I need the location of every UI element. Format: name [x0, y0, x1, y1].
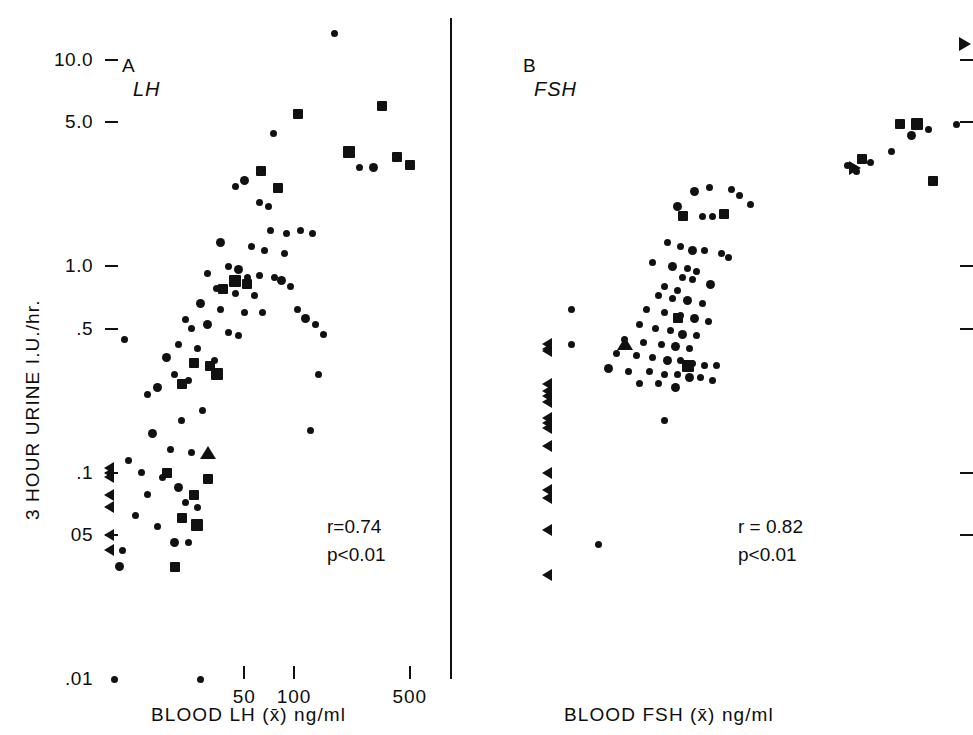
y-tick-mark — [105, 328, 118, 330]
data-point-circle — [713, 362, 720, 369]
data-point-circle — [633, 352, 640, 359]
data-point-circle — [225, 263, 232, 270]
data-point-circle — [182, 499, 189, 506]
data-point-circle — [315, 371, 322, 378]
data-point-circle — [188, 449, 195, 456]
data-point-square — [218, 284, 228, 294]
panel-a-statistics: r=0.74 p<0.01 — [327, 513, 386, 568]
data-point-circle — [671, 342, 680, 351]
x-tick-mark — [409, 666, 411, 679]
data-point-circle — [225, 329, 232, 336]
data-point-circle — [320, 331, 327, 338]
panel-b-x-axis-title: BLOOD FSH (x̄) ng/ml — [564, 704, 774, 726]
data-point-circle — [690, 187, 699, 196]
data-point-circle — [125, 457, 132, 464]
data-point-square — [189, 358, 199, 368]
data-point-square — [673, 313, 683, 323]
data-point-square — [229, 275, 241, 287]
data-point-circle — [568, 306, 575, 313]
y-tick-mark — [105, 534, 118, 536]
data-point-circle — [203, 320, 212, 329]
data-point-circle — [307, 427, 314, 434]
data-point-circle — [674, 371, 681, 378]
data-point-circle — [194, 504, 201, 511]
x-tick-mark — [243, 666, 245, 679]
x-tick-label: 500 — [375, 687, 445, 706]
y-tick-label: 05 — [25, 525, 93, 544]
y-tick-mark — [960, 121, 973, 123]
data-point-circle — [204, 270, 211, 277]
data-point-circle — [705, 318, 712, 325]
data-point-circle — [709, 377, 716, 384]
y-tick-label: 10.0 — [25, 50, 93, 69]
data-point-circle — [652, 325, 659, 332]
data-point-circle — [693, 268, 700, 275]
x-tick-mark — [293, 666, 295, 679]
data-point-circle — [297, 227, 304, 234]
data-point-circle — [655, 292, 662, 299]
data-point-circle — [256, 272, 263, 279]
data-point-circle — [232, 290, 239, 297]
data-point-circle — [736, 192, 743, 199]
panel-b-statistics: r = 0.82 p<0.01 — [738, 513, 803, 568]
data-point-square — [162, 468, 172, 478]
data-point-circle — [267, 227, 274, 234]
panel-b-plot-frame — [488, 18, 973, 679]
data-point-square — [682, 360, 694, 372]
data-point-circle — [196, 299, 205, 308]
data-point-circle — [688, 246, 697, 255]
data-point-circle — [625, 368, 632, 375]
data-point-circle — [144, 391, 151, 398]
data-point-circle — [261, 247, 268, 254]
data-point-circle — [706, 280, 715, 289]
data-point-circle — [613, 350, 620, 357]
data-point-circle — [259, 309, 266, 316]
data-point-circle — [640, 339, 647, 346]
data-point-circle — [725, 254, 732, 261]
data-point-circle — [111, 676, 118, 683]
data-point-square — [928, 176, 938, 186]
data-point-circle — [197, 676, 204, 683]
data-point-circle — [706, 184, 713, 191]
data-point-square — [191, 519, 203, 531]
data-point-circle — [697, 374, 704, 381]
data-point-tri-left — [542, 440, 552, 452]
data-point-circle — [294, 306, 301, 313]
data-point-circle — [148, 429, 157, 438]
panel-b-correlation-value: r = 0.82 — [738, 513, 803, 541]
panel-b-pvalue: p<0.01 — [738, 541, 803, 569]
data-point-tri-left — [542, 396, 552, 408]
data-point-circle — [658, 341, 665, 348]
data-point-circle — [568, 341, 575, 348]
data-point-circle — [144, 491, 151, 498]
data-point-square — [392, 152, 402, 162]
y-tick-label: 5.0 — [25, 112, 93, 131]
data-point-circle — [309, 230, 316, 237]
data-point-circle — [182, 316, 189, 323]
data-point-circle — [664, 239, 671, 246]
data-point-circle — [693, 332, 700, 339]
data-point-circle — [674, 287, 681, 294]
data-point-circle — [138, 469, 145, 476]
data-point-circle — [356, 164, 363, 171]
data-point-tri-left — [542, 467, 552, 479]
data-point-circle — [699, 213, 706, 220]
data-point-tri-left — [542, 569, 552, 581]
data-point-square — [177, 513, 187, 523]
y-tick-mark — [960, 472, 973, 474]
data-point-tri-up — [617, 337, 633, 350]
data-point-circle — [661, 283, 668, 290]
data-point-circle — [234, 265, 243, 274]
data-point-circle — [689, 276, 696, 283]
data-point-circle — [265, 203, 272, 210]
data-point-circle — [661, 309, 668, 316]
data-point-tri-right — [959, 37, 971, 51]
data-point-circle — [167, 446, 174, 453]
data-point-tri-left — [104, 544, 114, 556]
data-point-circle — [701, 362, 708, 369]
data-point-circle — [663, 356, 672, 365]
data-point-square — [211, 368, 223, 380]
panel-b-letter: B — [523, 55, 536, 77]
data-point-circle — [661, 417, 668, 424]
data-point-circle — [636, 380, 643, 387]
